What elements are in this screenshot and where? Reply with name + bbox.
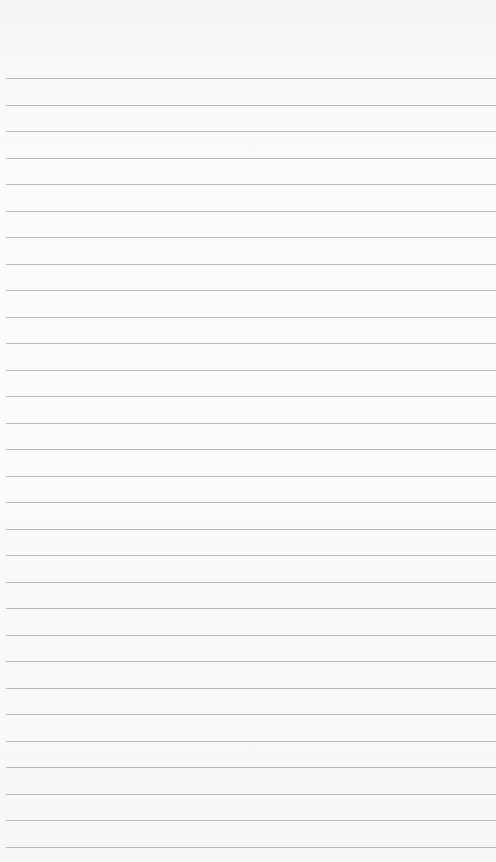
ruled-line [6, 370, 496, 371]
ruled-line [6, 343, 496, 344]
ruled-line [6, 290, 496, 291]
ruled-line [6, 794, 496, 795]
ruled-line [6, 820, 496, 821]
paper-top-margin [0, 0, 496, 70]
ruled-line [6, 635, 496, 636]
ruled-line [6, 237, 496, 238]
ruled-line [6, 661, 496, 662]
ruled-line [6, 396, 496, 397]
ruled-line [6, 608, 496, 609]
ruled-line [6, 529, 496, 530]
ruled-line [6, 211, 496, 212]
lined-paper [0, 0, 496, 862]
ruled-line [6, 158, 496, 159]
ruled-line [6, 131, 496, 132]
ruled-line [6, 184, 496, 185]
ruled-line [6, 264, 496, 265]
ruled-line [6, 741, 496, 742]
ruled-line [6, 502, 496, 503]
ruled-line [6, 78, 496, 79]
ruled-line [6, 847, 496, 848]
ruled-line [6, 105, 496, 106]
ruled-line [6, 317, 496, 318]
ruled-line [6, 449, 496, 450]
ruled-line [6, 476, 496, 477]
ruled-line [6, 714, 496, 715]
ruled-line [6, 767, 496, 768]
ruled-line [6, 423, 496, 424]
ruled-line [6, 555, 496, 556]
ruled-line [6, 688, 496, 689]
ruled-line [6, 582, 496, 583]
